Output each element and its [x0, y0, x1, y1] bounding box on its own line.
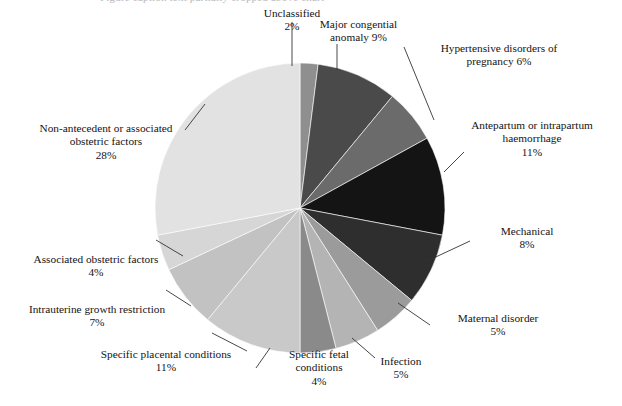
leader-line-maternal [398, 303, 430, 325]
label-major-anomaly: Major congential anomaly 9% [291, 18, 426, 45]
label-iugr: Intrauterine growth restriction 7% [4, 303, 190, 330]
label-maternal: Maternal disorder 5% [428, 312, 568, 339]
chart-area: Unclassified 2% Major congential anomaly… [0, 0, 622, 406]
label-hypertensive: Hypertensive disorders of pregnancy 6% [404, 42, 594, 69]
pie-slices [155, 63, 445, 353]
label-placental: Specific placental conditions 11% [78, 348, 254, 375]
label-assoc-obs: Associated obstetric factors 4% [10, 253, 182, 280]
pie-chart-figure: Figure caption text partially cropped ab… [0, 0, 622, 406]
label-non-antecedent: Non-antecedent or associated obstetric f… [6, 122, 206, 162]
label-infection: Infection 5% [356, 355, 446, 382]
label-mechanical: Mechanical 8% [467, 225, 587, 252]
label-haemorrhage: Antepartum or intrapartum haemorrhage 11… [446, 119, 618, 159]
label-fetal: Specific fetal conditions 4% [274, 348, 364, 388]
leader-line-fetal [256, 348, 270, 368]
